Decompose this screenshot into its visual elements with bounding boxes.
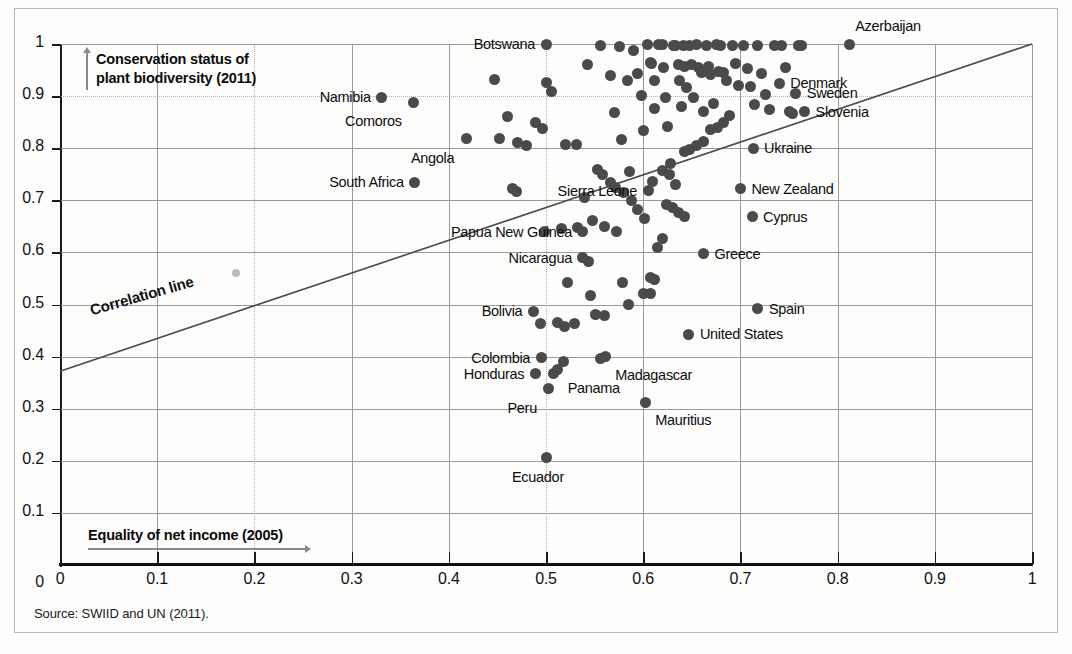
y-tick-label-0.9: 0.9 <box>0 85 44 103</box>
y-tick-0.7 <box>52 200 61 202</box>
data-point <box>764 104 775 115</box>
data-point <box>733 80 744 91</box>
x-tick-label-0.2: 0.2 <box>232 570 276 588</box>
point-label-cyprus: Cyprus <box>763 209 807 225</box>
point-label-angola: Angola <box>411 150 454 166</box>
x-tick-0.2 <box>254 552 256 564</box>
y-tick-label-1: 1 <box>0 33 44 51</box>
point-label-sweden: Sweden <box>807 85 858 101</box>
point-label-comoros: Comoros <box>345 113 402 129</box>
x-tick-0.5 <box>546 552 548 564</box>
y-tick-label-0.8: 0.8 <box>0 137 44 155</box>
x-tick-0.3 <box>352 552 354 564</box>
y-tick-label-0.1: 0.1 <box>0 502 44 520</box>
x-tick-0.6 <box>643 552 645 564</box>
data-point <box>632 68 643 79</box>
point-label-nicaragua: Nicaragua <box>509 250 572 266</box>
data-point <box>605 70 616 81</box>
data-point <box>660 92 671 103</box>
y-tick-label-0.5: 0.5 <box>0 294 44 312</box>
point-label-papua-new-guinea: Papua New Guinea <box>451 224 572 240</box>
point-label-mauritius: Mauritius <box>655 412 711 428</box>
y-tick-label-0.7: 0.7 <box>0 189 44 207</box>
gridline-v-0.1 <box>157 44 158 564</box>
y-tick-0.3 <box>52 409 61 411</box>
gridline-v-0.2 <box>254 44 255 564</box>
data-point <box>639 213 650 224</box>
data-point <box>664 169 675 180</box>
x-tick-label-0.4: 0.4 <box>427 570 471 588</box>
x-tick-label-0.7: 0.7 <box>718 570 762 588</box>
x-axis-title: Equality of net income (2005) <box>88 527 283 543</box>
data-point <box>718 117 729 128</box>
data-point <box>595 40 606 51</box>
data-point <box>738 40 749 51</box>
data-point-ecuador <box>541 452 552 463</box>
y-tick-0.5 <box>52 305 61 307</box>
x-tick-label-0.8: 0.8 <box>816 570 860 588</box>
chart-figure: 00.10.20.30.40.50.60.70.80.91 00.10.20.3… <box>0 0 1072 654</box>
data-point <box>776 40 787 51</box>
data-point <box>749 99 760 110</box>
gridline-v-0.5 <box>546 44 547 564</box>
y-tick-0.1 <box>52 513 61 515</box>
point-label-ecuador: Ecuador <box>512 469 564 485</box>
data-point <box>642 39 653 50</box>
data-point <box>587 215 598 226</box>
data-point-mauritius <box>640 397 651 408</box>
x-tick-1 <box>1032 552 1034 564</box>
y-axis-title-line1: Conservation status of <box>96 50 256 69</box>
x-tick-label-0: 0 <box>38 570 82 588</box>
data-point <box>670 179 681 190</box>
data-point <box>657 233 668 244</box>
data-point <box>796 40 807 51</box>
point-label-south-africa: South Africa <box>329 174 404 190</box>
data-point-south-africa <box>409 177 420 188</box>
data-point <box>649 103 660 114</box>
data-point <box>742 63 753 74</box>
data-point <box>715 40 726 51</box>
x-tick-label-0.3: 0.3 <box>330 570 374 588</box>
x-tick-0.9 <box>935 552 937 564</box>
point-label-bolivia: Bolivia <box>482 303 523 319</box>
point-label-spain: Spain <box>769 301 805 317</box>
gridline-v-0.4 <box>449 44 450 564</box>
data-point <box>489 74 500 85</box>
x-tick-0.8 <box>838 552 840 564</box>
gridline-v-1 <box>1032 44 1033 564</box>
data-point <box>562 277 573 288</box>
y-axis-arrow-icon <box>86 52 88 90</box>
x-tick-label-0.9: 0.9 <box>913 570 957 588</box>
data-point <box>752 40 763 51</box>
data-point-azerbaijan <box>844 39 855 50</box>
data-point <box>537 123 548 134</box>
data-point-madagascar <box>600 351 611 362</box>
data-point <box>780 62 791 73</box>
gridline-v-0.9 <box>935 44 936 564</box>
data-point-bolivia <box>528 306 539 317</box>
data-point <box>745 81 756 92</box>
y-axis-title-line2: plant biodiversity (2011) <box>96 69 256 88</box>
data-point <box>569 318 580 329</box>
point-label-united-states: United States <box>700 326 783 342</box>
point-label-new-zealand: New Zealand <box>751 181 833 197</box>
y-tick-0.6 <box>52 252 61 254</box>
data-point <box>609 107 620 118</box>
data-point <box>599 221 610 232</box>
point-label-colombia: Colombia <box>471 350 530 366</box>
y-tick-0.9 <box>52 96 61 98</box>
data-point <box>638 125 649 136</box>
x-tick-0.4 <box>449 552 451 564</box>
x-axis-arrow-icon <box>88 548 306 550</box>
point-label-peru: Peru <box>507 400 536 416</box>
y-tick-label-0.6: 0.6 <box>0 241 44 259</box>
data-point <box>636 90 647 101</box>
y-tick-0.2 <box>52 461 61 463</box>
x-tick-label-0.1: 0.1 <box>135 570 179 588</box>
x-tick-label-0.6: 0.6 <box>621 570 665 588</box>
point-label-namibia: Namibia <box>320 89 371 105</box>
data-point-ukraine <box>748 143 759 154</box>
y-tick-label-0.3: 0.3 <box>0 398 44 416</box>
y-tick-1 <box>52 44 61 46</box>
gridline-v-0.6 <box>643 44 644 564</box>
